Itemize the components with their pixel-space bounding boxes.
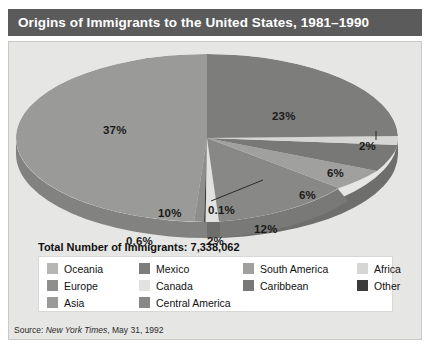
legend-swatch-caribbean (243, 280, 254, 291)
chart-figure: Origins of Immigrants to the United Stat… (0, 0, 438, 348)
legend-label-mexico: Mexico (156, 263, 189, 275)
page-title: Origins of Immigrants to the United Stat… (18, 15, 369, 30)
pie-chart: 37% 23% 2% 6% 6% 12% 0.1% 10% 0.6% 2% (8, 41, 422, 241)
legend-label-asia: Asia (64, 297, 84, 309)
legend-label-other: Other (374, 280, 400, 292)
source-note: Source: New York Times, May 31, 1992 (14, 325, 164, 335)
legend-label-caribbean: Caribbean (260, 280, 308, 292)
chart-title-bar: Origins of Immigrants to the United Stat… (8, 9, 422, 36)
pie-label-oceania: 0.1% (208, 204, 235, 216)
pie-label-caribbean: 6% (327, 167, 344, 179)
pie-label-africa: 2% (359, 140, 376, 152)
legend-label-central-america: Central America (156, 297, 231, 309)
legend-item-south-america[interactable]: South America (243, 260, 357, 277)
pie-slice-mexico (207, 54, 398, 138)
pie-label-mexico: 23% (272, 110, 296, 122)
legend-swatch-oceania (47, 263, 58, 274)
legend-item-caribbean[interactable]: Caribbean (243, 277, 357, 294)
source-publication: New York Times (46, 325, 108, 335)
legend-swatch-canada (139, 280, 150, 291)
total-immigrants-label: Total Number of Immigrants: 7,338,062 (38, 241, 240, 253)
legend-label-oceania: Oceania (64, 263, 103, 275)
pie-label-central-america: 12% (254, 223, 278, 235)
legend-item-mexico[interactable]: Mexico (139, 260, 243, 277)
legend-label-south-america: South America (260, 263, 328, 275)
legend-swatch-africa (357, 263, 368, 274)
legend-swatch-south-america (243, 263, 254, 274)
legend-item-africa[interactable]: Africa (357, 260, 401, 277)
legend-item-canada[interactable]: Canada (139, 277, 243, 294)
pie-label-south-america: 6% (299, 189, 316, 201)
source-suffix: , May 31, 1992 (107, 325, 163, 335)
legend-swatch-europe (47, 280, 58, 291)
source-prefix: Source: (14, 325, 46, 335)
legend-swatch-central-america (139, 297, 150, 308)
legend-swatch-mexico (139, 263, 150, 274)
legend-item-other[interactable]: Other (357, 277, 401, 294)
legend-item-asia[interactable]: Asia (47, 294, 139, 311)
legend-grid: Oceania Mexico South America Africa Euro… (39, 257, 392, 311)
legend-label-europe: Europe (64, 280, 98, 292)
legend-label-canada: Canada (156, 280, 193, 292)
legend-item-europe[interactable]: Europe (47, 277, 139, 294)
legend-item-central-america[interactable]: Central America (139, 294, 243, 311)
pie-label-asia: 37% (103, 124, 127, 136)
legend-swatch-other (357, 280, 368, 291)
chart-legend: Oceania Mexico South America Africa Euro… (38, 256, 393, 312)
legend-label-africa: Africa (374, 263, 401, 275)
legend-swatch-asia (47, 297, 58, 308)
legend-item-oceania[interactable]: Oceania (47, 260, 139, 277)
pie-label-europe: 10% (158, 207, 182, 219)
